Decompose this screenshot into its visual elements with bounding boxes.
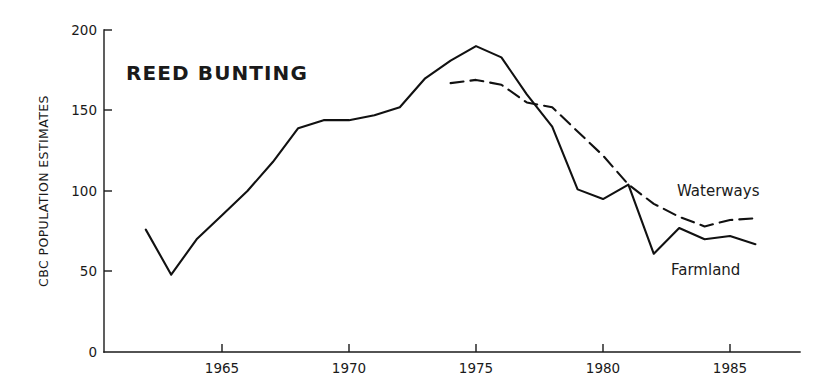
line-chart: CBC POPULATION ESTIMATES 200 150 100 50 … [0,0,838,391]
chart-container: CBC POPULATION ESTIMATES 200 150 100 50 … [0,0,838,391]
series-label-farmland: Farmland [671,261,740,279]
series-label-waterways: Waterways [677,182,760,200]
y-tick-label-0: 0 [88,344,97,360]
x-axis-ticks [222,344,730,352]
x-tick-label-1970: 1970 [332,360,366,376]
chart-title: REED BUNTING [126,61,308,85]
y-tick-label-100: 100 [71,183,97,199]
x-tick-label-1985: 1985 [713,360,747,376]
y-axis-tick-labels: 200 150 100 50 0 [71,22,97,360]
y-tick-label-50: 50 [80,263,97,279]
y-axis-ticks [104,30,112,271]
x-tick-label-1965: 1965 [205,360,239,376]
y-tick-label-150: 150 [71,102,97,118]
x-tick-label-1975: 1975 [459,360,493,376]
series-line-waterways [451,80,756,227]
x-tick-label-1980: 1980 [586,360,620,376]
y-tick-label-200: 200 [71,22,97,38]
y-axis-title: CBC POPULATION ESTIMATES [36,95,51,287]
x-axis-tick-labels: 1965 1970 1975 1980 1985 [205,360,747,376]
